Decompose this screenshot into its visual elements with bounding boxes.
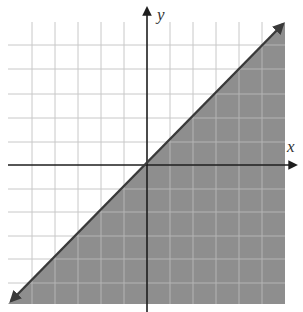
inequality-graph: x y bbox=[0, 0, 303, 312]
x-axis-label: x bbox=[286, 137, 295, 156]
y-axis-label: y bbox=[155, 5, 165, 24]
